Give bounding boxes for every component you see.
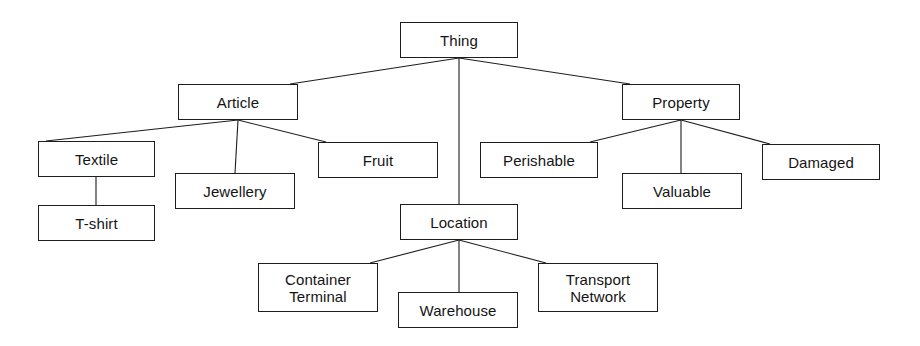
node-location[interactable]: Location [400,204,518,240]
node-damaged[interactable]: Damaged [762,144,880,180]
node-property[interactable]: Property [622,84,740,120]
edge-article-to-fruit [238,120,326,142]
taxonomy-diagram: ThingArticlePropertyTextileJewelleryFrui… [0,0,920,346]
edge-property-to-perishable [590,120,681,142]
node-label-article: Article [217,94,259,111]
edge-thing-to-property [459,58,630,84]
edge-article-to-jewellery [235,120,238,173]
node-label-valuable: Valuable [653,183,711,200]
node-transport-network[interactable]: Transport Network [538,263,658,312]
node-label-damaged: Damaged [788,154,854,171]
edge-location-to-transport-network [459,240,546,263]
node-label-fruit: Fruit [363,152,394,169]
edge-location-to-container-terminal [370,240,459,263]
node-label-thing: Thing [440,32,478,49]
node-jewellery[interactable]: Jewellery [175,173,295,209]
node-label-container-terminal: Container Terminal [285,271,351,305]
node-textile[interactable]: Textile [38,141,155,177]
node-label-tshirt: T-shirt [75,215,117,232]
node-label-location: Location [430,214,488,231]
node-label-warehouse: Warehouse [419,302,496,319]
edge-property-to-damaged [681,120,770,144]
node-label-jewellery: Jewellery [203,183,266,200]
node-perishable[interactable]: Perishable [480,142,598,178]
node-container-terminal[interactable]: Container Terminal [258,263,378,312]
node-label-perishable: Perishable [503,152,575,169]
edge-thing-to-article [290,58,459,84]
edge-article-to-textile [46,120,238,141]
node-tshirt[interactable]: T-shirt [38,205,155,241]
node-label-property: Property [652,94,710,111]
node-thing[interactable]: Thing [400,22,518,58]
node-warehouse[interactable]: Warehouse [398,292,518,328]
node-fruit[interactable]: Fruit [318,142,438,178]
node-article[interactable]: Article [178,84,298,120]
node-valuable[interactable]: Valuable [622,173,742,209]
node-label-transport-network: Transport Network [566,271,631,305]
node-label-textile: Textile [75,151,118,168]
